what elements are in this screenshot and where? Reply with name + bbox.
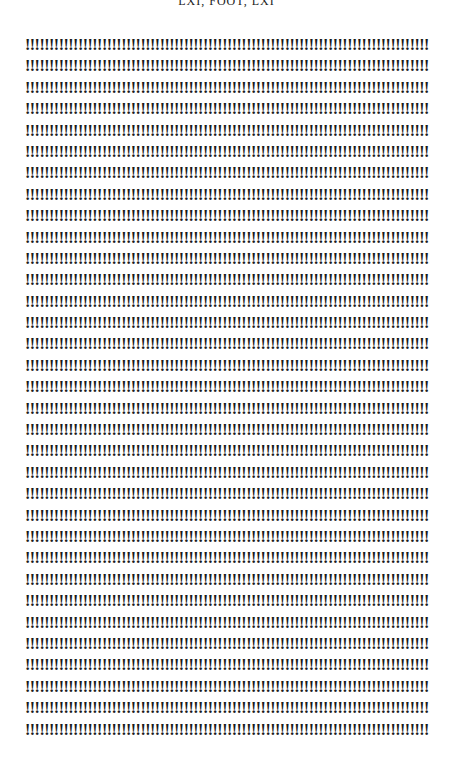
text-line: !!!!!!!!!!!!!!!!!!!!!!!!!!!!!!!!!!!!!!!!… xyxy=(25,141,430,162)
text-line: !!!!!!!!!!!!!!!!!!!!!!!!!!!!!!!!!!!!!!!!… xyxy=(25,676,430,697)
text-line: !!!!!!!!!!!!!!!!!!!!!!!!!!!!!!!!!!!!!!!!… xyxy=(25,569,430,590)
text-line: !!!!!!!!!!!!!!!!!!!!!!!!!!!!!!!!!!!!!!!!… xyxy=(25,269,430,290)
text-line: !!!!!!!!!!!!!!!!!!!!!!!!!!!!!!!!!!!!!!!!… xyxy=(25,419,430,440)
text-line: !!!!!!!!!!!!!!!!!!!!!!!!!!!!!!!!!!!!!!!!… xyxy=(25,633,430,654)
text-line: !!!!!!!!!!!!!!!!!!!!!!!!!!!!!!!!!!!!!!!!… xyxy=(25,291,430,312)
text-line: !!!!!!!!!!!!!!!!!!!!!!!!!!!!!!!!!!!!!!!!… xyxy=(25,590,430,611)
body-text: !!!!!!!!!!!!!!!!!!!!!!!!!!!!!!!!!!!!!!!!… xyxy=(25,34,430,740)
text-line: !!!!!!!!!!!!!!!!!!!!!!!!!!!!!!!!!!!!!!!!… xyxy=(25,612,430,633)
text-line: !!!!!!!!!!!!!!!!!!!!!!!!!!!!!!!!!!!!!!!!… xyxy=(25,77,430,98)
text-line: !!!!!!!!!!!!!!!!!!!!!!!!!!!!!!!!!!!!!!!!… xyxy=(25,376,430,397)
text-line: !!!!!!!!!!!!!!!!!!!!!!!!!!!!!!!!!!!!!!!!… xyxy=(25,654,430,675)
text-line: !!!!!!!!!!!!!!!!!!!!!!!!!!!!!!!!!!!!!!!!… xyxy=(25,697,430,718)
text-line: !!!!!!!!!!!!!!!!!!!!!!!!!!!!!!!!!!!!!!!!… xyxy=(25,248,430,269)
text-line: !!!!!!!!!!!!!!!!!!!!!!!!!!!!!!!!!!!!!!!!… xyxy=(25,483,430,504)
text-line: !!!!!!!!!!!!!!!!!!!!!!!!!!!!!!!!!!!!!!!!… xyxy=(25,333,430,354)
text-line: !!!!!!!!!!!!!!!!!!!!!!!!!!!!!!!!!!!!!!!!… xyxy=(25,505,430,526)
text-line: !!!!!!!!!!!!!!!!!!!!!!!!!!!!!!!!!!!!!!!!… xyxy=(25,98,430,119)
text-line: !!!!!!!!!!!!!!!!!!!!!!!!!!!!!!!!!!!!!!!!… xyxy=(25,398,430,419)
text-line: !!!!!!!!!!!!!!!!!!!!!!!!!!!!!!!!!!!!!!!!… xyxy=(25,227,430,248)
text-line: !!!!!!!!!!!!!!!!!!!!!!!!!!!!!!!!!!!!!!!!… xyxy=(25,547,430,568)
text-line: !!!!!!!!!!!!!!!!!!!!!!!!!!!!!!!!!!!!!!!!… xyxy=(25,526,430,547)
text-line: !!!!!!!!!!!!!!!!!!!!!!!!!!!!!!!!!!!!!!!!… xyxy=(25,719,430,740)
page-header: LXI, FOOT, LXI xyxy=(0,0,453,9)
text-line: !!!!!!!!!!!!!!!!!!!!!!!!!!!!!!!!!!!!!!!!… xyxy=(25,205,430,226)
text-line: !!!!!!!!!!!!!!!!!!!!!!!!!!!!!!!!!!!!!!!!… xyxy=(25,55,430,76)
text-line: !!!!!!!!!!!!!!!!!!!!!!!!!!!!!!!!!!!!!!!!… xyxy=(25,184,430,205)
text-line: !!!!!!!!!!!!!!!!!!!!!!!!!!!!!!!!!!!!!!!!… xyxy=(25,440,430,461)
text-line: !!!!!!!!!!!!!!!!!!!!!!!!!!!!!!!!!!!!!!!!… xyxy=(25,355,430,376)
text-line: !!!!!!!!!!!!!!!!!!!!!!!!!!!!!!!!!!!!!!!!… xyxy=(25,162,430,183)
text-line: !!!!!!!!!!!!!!!!!!!!!!!!!!!!!!!!!!!!!!!!… xyxy=(25,462,430,483)
text-line: !!!!!!!!!!!!!!!!!!!!!!!!!!!!!!!!!!!!!!!!… xyxy=(25,120,430,141)
text-line: !!!!!!!!!!!!!!!!!!!!!!!!!!!!!!!!!!!!!!!!… xyxy=(25,312,430,333)
text-line: !!!!!!!!!!!!!!!!!!!!!!!!!!!!!!!!!!!!!!!!… xyxy=(25,34,430,55)
